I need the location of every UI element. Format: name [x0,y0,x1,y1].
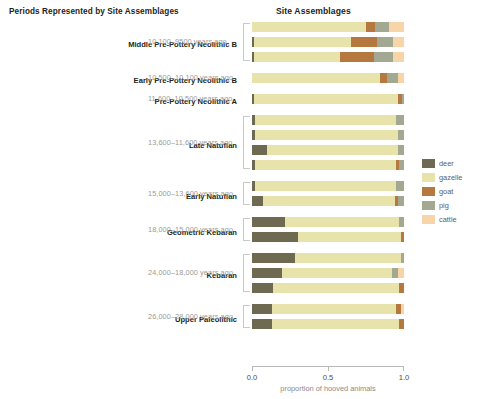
bar-segment-pig [396,181,404,191]
bar-segment-deer [252,319,272,329]
x-axis-tick [252,367,253,371]
bar-segment-pig [374,52,394,62]
bar-segment-gazelle [252,22,366,32]
bar-segment-gazelle [282,268,391,278]
bar-segment-gazelle [263,196,395,206]
stacked-bar-plot-area [252,22,404,362]
bar-segment-pig [402,94,404,104]
assemblage-bar [252,232,404,242]
x-axis-title: proportion of hooved animals [252,384,404,393]
bar-segment-gazelle [252,73,380,83]
bar-segment-gazelle [272,304,397,314]
bar-segment-gazelle [267,145,398,155]
bar-segment-gazelle [254,37,351,47]
period-date-range: 10,500–10,100 years ago [148,72,233,84]
assemblage-bar [252,130,404,140]
period-date-range: 18,000–15,000 years ago [148,224,233,236]
period-bracket [243,218,250,241]
legend-label: deer [439,159,454,168]
assemblage-bar [252,217,404,227]
period-bracket [243,23,250,61]
x-axis-tick-label: 0.0 [247,373,258,382]
bar-segment-gazelle [255,160,396,170]
assemblage-bar [252,304,404,314]
bar-segment-cattle [389,22,404,32]
bar-segment-deer [252,217,285,227]
bar-segment-deer [252,304,272,314]
bar-segment-cattle [393,37,404,47]
bar-segment-deer [252,283,273,293]
assemblage-bar [252,73,404,83]
bar-segment-gazelle [298,232,401,242]
assemblage-bar [252,283,404,293]
bar-segment-cattle [393,52,404,62]
assemblage-bar [252,52,404,62]
bar-segment-deer [252,196,263,206]
legend-swatch-goat [422,187,435,196]
bar-segment-pig [387,73,398,83]
assemblage-bar [252,268,404,278]
period-date-range: 11,600–10,500 years ago [148,93,233,105]
bar-segment-goat [340,52,373,62]
bar-segment-gazelle [295,253,401,263]
legend: deergazellegoatpigcattle [422,157,462,227]
period-bracket [243,116,250,169]
assemblage-bar [252,160,404,170]
legend-swatch-gazelle [422,173,435,182]
legend-label: gazelle [439,173,462,182]
bar-segment-pig [398,145,404,155]
period-date-range: 26,000–28,000 years ago [148,311,233,323]
assemblage-bar [252,319,404,329]
bar-segment-goat [351,37,377,47]
period-date-range: 15,000–13,600 years ago [148,188,233,200]
chart-figure: Periods Represented by Site Assemblages … [0,0,480,399]
bar-segment-gazelle [272,319,400,329]
legend-swatch-cattle [422,215,435,224]
bar-segment-cattle [401,304,404,314]
assemblage-bar [252,37,404,47]
x-axis-tick-label: 0.5 [323,373,334,382]
bar-segment-gazelle [255,181,396,191]
bar-segment-gazelle [255,130,398,140]
legend-label: cattle [439,215,457,224]
period-bracket [243,182,250,205]
legend-item[interactable]: goat [422,185,462,198]
bar-segment-goat [399,283,404,293]
bar-segment-gazelle [255,115,396,125]
bar-segment-gazelle [254,52,341,62]
bar-segment-deer [252,145,267,155]
bar-segment-pig [377,37,394,47]
chart-title: Site Assemblages [276,6,351,16]
bar-segment-goat [401,232,404,242]
legend-item[interactable]: cattle [422,213,462,226]
bar-segment-pig [399,217,404,227]
legend-label: pig [439,201,449,210]
bar-segment-pig [398,130,404,140]
legend-item[interactable]: pig [422,199,462,212]
bar-segment-deer [252,268,282,278]
period-date-range: 10,100–9500 years ago [148,36,227,48]
assemblage-bar [252,145,404,155]
assemblage-bar [252,196,404,206]
x-axis-tick [328,367,329,371]
period-bracket [243,254,250,292]
bar-segment-pig [375,22,389,32]
legend-swatch-pig [422,201,435,210]
bar-segment-cattle [398,73,404,83]
legend-item[interactable]: deer [422,157,462,170]
bar-segment-pig [398,196,404,206]
bar-segment-deer [252,232,298,242]
bar-segment-deer [252,253,295,263]
bar-segment-pig [396,115,404,125]
assemblage-bar [252,253,404,263]
bar-segment-pig [401,253,404,263]
bar-segment-goat [380,73,388,83]
bar-segment-gazelle [254,94,398,104]
bar-segment-cattle [398,268,404,278]
assemblage-bar [252,22,404,32]
assemblage-bar [252,181,404,191]
period-bracket [243,305,250,328]
bar-segment-goat [366,22,375,32]
legend-item[interactable]: gazelle [422,171,462,184]
x-axis: 0.00.51.0 [252,366,404,372]
